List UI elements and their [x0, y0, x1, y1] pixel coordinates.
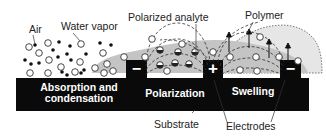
electrode-center-sign: +	[203, 60, 223, 77]
air-label: Air	[29, 24, 42, 35]
polymer-label: Polymer	[245, 10, 284, 21]
stage-absorption-label: Absorption and condensation	[34, 82, 124, 104]
electrodes-label: Electrodes	[226, 121, 276, 132]
polarized-analyte-label: Polarized analyte	[128, 12, 209, 23]
sensor-mechanism-diagram: Air Water vapor Polarized analyte Polyme…	[0, 0, 326, 138]
stage-polarization-label: Polarization	[143, 88, 207, 99]
stage-swelling-label: Swelling	[227, 86, 279, 97]
electrode-left-sign: −	[126, 61, 147, 77]
water-vapor-label: Water vapor	[61, 21, 118, 32]
electrode-right-sign: −	[280, 61, 301, 77]
substrate-label: Substrate	[154, 119, 199, 130]
